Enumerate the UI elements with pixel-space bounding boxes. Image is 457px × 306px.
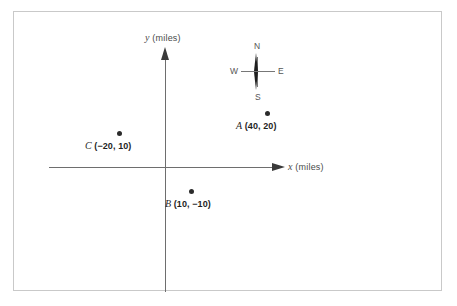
- x-axis-label-variable: x: [288, 161, 293, 172]
- y-axis-label-units: (miles): [152, 33, 180, 43]
- y-axis-line: [165, 58, 166, 292]
- x-axis-arrow-icon: [272, 163, 285, 171]
- data-point-label: C (−20, 10): [85, 140, 131, 151]
- data-point-label: A (40, 20): [236, 120, 277, 131]
- y-axis-arrow-icon: [161, 47, 169, 60]
- data-point-marker: [117, 131, 122, 136]
- compass-horizontal-line: [241, 71, 275, 72]
- data-point-marker: [265, 111, 270, 116]
- compass-label-south: S: [255, 92, 261, 102]
- y-axis-label: y (miles): [145, 32, 181, 43]
- data-point-coords: (10, −10): [174, 199, 211, 209]
- compass-label-north: N: [254, 41, 260, 51]
- data-point-name: A: [236, 120, 242, 131]
- compass-needle-north-icon: [254, 53, 258, 71]
- compass-label-east: E: [278, 66, 284, 76]
- data-point-marker: [189, 189, 194, 194]
- x-axis-line: [49, 167, 276, 168]
- x-axis-label: x (miles): [288, 161, 324, 172]
- data-point-coords: (40, 20): [245, 121, 277, 131]
- figure-border: x (miles) y (miles) A (40, 20) C (−20, 1…: [13, 11, 442, 291]
- data-point-name: C: [85, 140, 92, 151]
- y-axis-label-variable: y: [145, 32, 150, 43]
- data-point-coords: (−20, 10): [94, 141, 131, 151]
- compass-needle-south-icon: [254, 72, 258, 90]
- compass-rose-icon: N S W E: [230, 41, 286, 103]
- figure-canvas: x (miles) y (miles) A (40, 20) C (−20, 1…: [0, 0, 457, 306]
- data-point-name: B: [165, 198, 171, 209]
- compass-label-west: W: [230, 66, 238, 76]
- x-axis-label-units: (miles): [295, 162, 323, 172]
- data-point-label: B (10, −10): [165, 198, 211, 209]
